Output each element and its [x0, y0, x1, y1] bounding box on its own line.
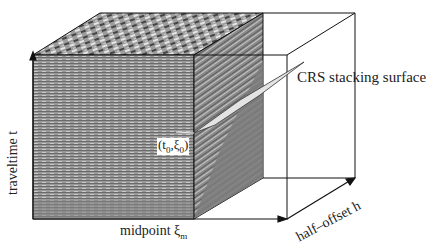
- point-text-b: ,ξ: [170, 137, 179, 152]
- point-text-c: ): [184, 137, 188, 152]
- x-axis-sub: m: [180, 231, 187, 241]
- x-axis-label: midpoint ξm: [120, 224, 187, 241]
- point-text-a: (t: [158, 137, 166, 152]
- y-axis-label: traveltime t: [6, 131, 20, 195]
- x-axis-text: midpoint ξ: [120, 223, 180, 238]
- point-label: (t0,ξ0): [157, 138, 189, 155]
- crs-surface-label: CRS stacking surface: [297, 70, 426, 85]
- front-face-bottom: [33, 200, 194, 219]
